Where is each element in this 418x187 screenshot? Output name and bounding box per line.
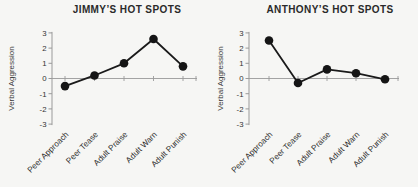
hot-spots-figure: JIMMY’S HOT SPOTSVerbal Aggression3210-1… [0,0,418,187]
y-tick-label: -1 [40,90,47,99]
data-point [381,75,390,84]
x-category-label: Peer Approach [26,130,71,175]
jimmy-chart-svg: JIMMY’S HOT SPOTSVerbal Aggression3210-1… [0,0,209,187]
y-axis-title: Verbal Aggression [216,46,225,111]
data-point [352,69,361,78]
jimmy-chart: JIMMY’S HOT SPOTSVerbal Aggression3210-1… [0,0,209,187]
y-tick-label: 0 [239,74,244,83]
anthony-chart: ANTHONY’S HOT SPOTSVerbal Aggression3210… [209,0,418,187]
chart-title: ANTHONY’S HOT SPOTS [266,4,393,15]
data-point [90,71,99,80]
anthony-chart-svg: ANTHONY’S HOT SPOTSVerbal Aggression3210… [209,0,418,187]
y-tick-label: -3 [40,120,47,129]
y-tick-label: 3 [239,29,243,38]
data-point [149,35,158,44]
y-tick-label: 1 [42,59,46,68]
data-point [61,82,70,91]
y-tick-label: -3 [237,120,244,129]
data-point [265,36,274,45]
data-point [323,65,332,74]
y-tick-label: 2 [239,44,243,53]
y-tick-label: 2 [42,44,46,53]
chart-title: JIMMY’S HOT SPOTS [73,4,181,15]
x-category-label: Peer Approach [230,130,275,175]
y-tick-label: 3 [42,29,46,38]
y-tick-label: 0 [42,74,47,83]
y-tick-label: -2 [40,105,47,114]
y-axis-title: Verbal Aggression [7,46,16,111]
data-point [179,62,188,71]
data-point [294,79,303,88]
y-tick-label: -2 [237,105,244,114]
y-tick-label: -1 [237,90,244,99]
y-tick-label: 1 [239,59,243,68]
data-point [120,59,129,68]
